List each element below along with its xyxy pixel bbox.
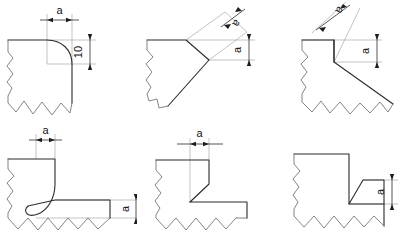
object-outline <box>8 40 72 103</box>
arrow-left-a <box>36 138 42 142</box>
arrow-right-a <box>203 142 209 146</box>
dimension-label-a-vertical: a <box>231 46 243 53</box>
dimension-line-a-angled <box>316 5 350 30</box>
arrow-a-angled-low <box>224 24 231 29</box>
arrow-top-10 <box>88 34 92 40</box>
dimension-label-a: a <box>196 127 203 139</box>
panel-notched-corner-joint: a <box>274 122 411 244</box>
break-line <box>146 40 168 108</box>
panel-angled-bevel-corner: a a <box>137 0 274 122</box>
break-line <box>7 40 72 115</box>
arrow-top-a <box>390 174 394 180</box>
dimension-label-10: 10 <box>72 46 84 58</box>
arrow-bottom-a <box>247 60 251 66</box>
arrow-bottom-a <box>375 62 379 68</box>
break-line <box>293 154 384 228</box>
arrow-right-a <box>66 18 72 22</box>
panel-fillet-radius-corner: a 10 <box>0 0 137 122</box>
arrow-bottom-a <box>390 204 394 210</box>
object-outline <box>8 159 110 218</box>
dimension-label-a-vertical: a <box>359 47 371 54</box>
extension-line-upper-angled <box>186 12 225 40</box>
extension-line-angled-right <box>334 8 360 62</box>
break-line <box>155 160 247 230</box>
arrow-bottom-10 <box>88 64 92 70</box>
dimension-label-a: a <box>42 124 49 136</box>
object-outline <box>302 40 393 104</box>
object-outline <box>156 160 247 218</box>
arrow-top-a <box>375 34 379 40</box>
break-line <box>7 159 110 230</box>
panel-steep-angled-cut: a a <box>274 0 411 122</box>
dimension-label-a: a <box>56 4 63 16</box>
drawing-sheet: a 10 a a <box>0 0 411 244</box>
break-line <box>301 40 393 114</box>
arrow-a-angled-low <box>319 27 326 32</box>
panel-rounded-step-joint: a a <box>0 122 137 244</box>
extension-line-lower-angled <box>209 32 247 60</box>
arrow-right-a <box>49 138 55 142</box>
arrow-left-a <box>47 18 53 22</box>
arrow-a-angled-high <box>235 7 242 12</box>
arrow-top-a <box>247 34 251 40</box>
object-outline <box>294 154 384 226</box>
dimension-label-a-angled: a <box>230 18 244 31</box>
object-outline <box>147 40 209 106</box>
dimension-label-a-vertical: a <box>119 205 131 212</box>
arrow-left-a <box>190 142 196 146</box>
panel-chamfered-step-joint: a <box>137 122 274 244</box>
